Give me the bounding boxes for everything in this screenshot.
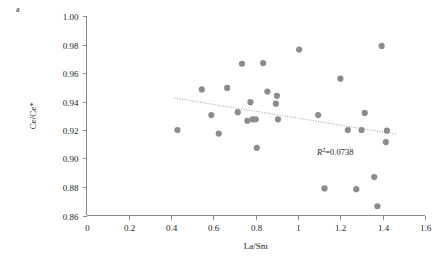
data-point: [371, 174, 377, 180]
data-point: [337, 76, 343, 82]
y-tick-label: 0.86: [63, 212, 79, 222]
data-point: [260, 60, 266, 66]
data-point: [384, 128, 390, 134]
data-point: [296, 46, 302, 52]
data-point: [358, 127, 364, 133]
y-tick-label: 0.92: [63, 126, 79, 136]
data-point: [345, 127, 351, 133]
x-axis-title: La/Sm: [244, 241, 268, 251]
y-tick-label: 0.98: [63, 41, 79, 51]
data-point: [199, 86, 205, 92]
x-axis-tick-labels: 00.20.40.60.811.21.41.6: [85, 223, 431, 233]
x-tick-label: 0.8: [251, 223, 263, 233]
y-axis-ticks: [83, 17, 87, 217]
data-points: [174, 43, 390, 210]
data-point: [315, 112, 321, 118]
data-point: [273, 101, 279, 107]
data-point: [239, 61, 245, 67]
data-point: [235, 109, 241, 115]
data-point: [379, 43, 385, 49]
y-tick-label: 0.88: [63, 183, 79, 193]
data-point: [174, 127, 180, 133]
x-tick-label: 1.6: [420, 223, 432, 233]
figure-container: a 0.860.880.900.920.940.960.981.00 00.20…: [0, 0, 447, 272]
x-tick-label: 0.4: [166, 223, 178, 233]
x-axis-ticks: [130, 216, 426, 220]
x-tick-label: 1.2: [335, 223, 346, 233]
data-point: [274, 93, 280, 99]
data-point: [224, 85, 230, 91]
x-tick-label: 1.4: [378, 223, 390, 233]
data-point: [254, 145, 260, 151]
scatter-plot: 0.860.880.900.920.940.960.981.00 00.20.4…: [0, 0, 447, 272]
data-point: [264, 88, 270, 94]
y-tick-label: 0.96: [63, 69, 79, 79]
y-axis-tick-labels: 0.860.880.900.920.940.960.981.00: [63, 12, 79, 222]
x-tick-label: 1: [296, 223, 301, 233]
y-tick-label: 0.94: [63, 98, 79, 108]
data-point: [216, 130, 222, 136]
r-squared-annotation: R2=0.0738: [316, 147, 353, 157]
data-point: [247, 99, 253, 105]
data-point: [321, 185, 327, 191]
data-point: [244, 118, 250, 124]
data-point: [374, 203, 380, 209]
data-point: [383, 139, 389, 145]
y-tick-label: 0.90: [63, 154, 79, 164]
x-tick-label: 0.2: [124, 223, 135, 233]
y-axis-title: Ce/Ce*: [28, 102, 38, 129]
data-point: [253, 116, 259, 122]
data-point: [353, 186, 359, 192]
data-point: [362, 110, 368, 116]
y-tick-label: 1.00: [63, 12, 79, 22]
data-point: [208, 112, 214, 118]
x-tick-label: 0.6: [208, 223, 220, 233]
x-tick-label: 0: [85, 223, 90, 233]
data-point: [275, 116, 281, 122]
